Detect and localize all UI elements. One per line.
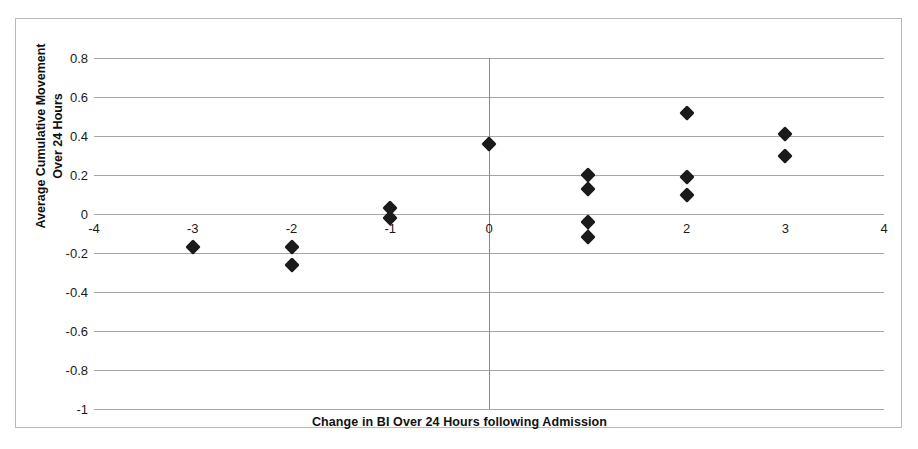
y-tick-label: 0.4 — [70, 129, 88, 144]
y-tick-label: -0.8 — [66, 363, 88, 378]
scatter-plot-screenshot: 0.80.60.40.20-0.2-0.4-0.6-0.8-1 -4-3-2-1… — [0, 0, 918, 449]
y-tick-label: 0.8 — [70, 51, 88, 66]
x-tick-label: 4 — [880, 221, 887, 236]
chart-frame: 0.80.60.40.20-0.2-0.4-0.6-0.8-1 -4-3-2-1… — [15, 18, 902, 428]
x-axis-tick-labels: -4-3-2-101234 — [94, 221, 884, 241]
x-tick-label: 1 — [584, 221, 591, 236]
data-point — [679, 105, 695, 121]
y-tick-label: -0.2 — [66, 246, 88, 261]
y-axis-title-line-2: Over 24 Hours — [50, 6, 67, 266]
data-point — [777, 148, 793, 164]
y-axis-title: Average Cumulative Movement Over 24 Hour… — [33, 6, 67, 266]
x-axis-title: Change in BI Over 24 Hours following Adm… — [16, 415, 903, 429]
data-point — [284, 257, 300, 273]
data-point — [777, 126, 793, 142]
data-point — [679, 187, 695, 203]
y-tick-label: 0.2 — [70, 168, 88, 183]
x-tick-label: -2 — [286, 221, 298, 236]
gridline-neg1 — [94, 409, 884, 410]
x-tick-label: -3 — [187, 221, 199, 236]
data-point — [481, 136, 497, 152]
y-tick-label: -0.4 — [66, 285, 88, 300]
data-point — [580, 181, 596, 197]
x-tick-label: -1 — [384, 221, 396, 236]
y-tick-label: 0 — [81, 207, 88, 222]
data-point — [679, 169, 695, 185]
x-tick-label: 3 — [782, 221, 789, 236]
y-tick-label: -0.6 — [66, 324, 88, 339]
y-axis-title-line-1: Average Cumulative Movement — [34, 44, 48, 229]
x-tick-label: 0 — [485, 221, 492, 236]
y-tick-label: 0.6 — [70, 90, 88, 105]
x-tick-label: -4 — [88, 221, 100, 236]
x-tick-label: 2 — [683, 221, 690, 236]
